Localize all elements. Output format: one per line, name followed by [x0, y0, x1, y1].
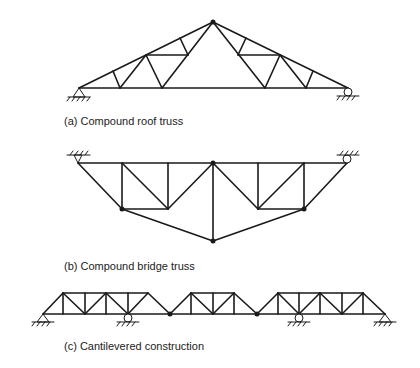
pin-support-icon [374, 314, 396, 326]
hinge-icon [302, 207, 307, 212]
caption-b: (b) Compound bridge truss [64, 260, 195, 272]
roller-support-icon [337, 88, 359, 100]
roller-support-icon [337, 151, 359, 163]
pin-support-icon [32, 314, 54, 326]
hinge-icon [211, 20, 216, 25]
hinge-icon [168, 312, 173, 317]
caption-c: (c) Cantilevered construction [64, 340, 204, 352]
truss-diagrams [0, 0, 420, 368]
caption-a: (a) Compound roof truss [64, 115, 183, 127]
hinge-icon [255, 312, 260, 317]
pin-support-icon [67, 88, 90, 101]
pin-support-icon [67, 151, 90, 163]
roller-support-icon [288, 314, 310, 326]
hinge-icon [120, 207, 125, 212]
roller-support-icon [117, 314, 139, 326]
compound-bridge-truss [67, 151, 359, 244]
cantilevered-truss [32, 293, 396, 326]
hinge-icon [211, 161, 216, 166]
hinge-icon [211, 239, 216, 244]
compound-roof-truss [67, 20, 359, 102]
